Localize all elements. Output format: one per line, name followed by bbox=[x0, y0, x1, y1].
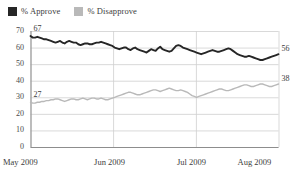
x-tick-label: May 2009 bbox=[3, 158, 38, 167]
x-tick-label: Jun 2009 bbox=[94, 158, 125, 167]
y-tick-label: 0 bbox=[6, 143, 24, 151]
y-tick-label: 10 bbox=[6, 126, 24, 134]
y-tick-label: 40 bbox=[6, 77, 24, 85]
y-tick-label: 60 bbox=[6, 44, 24, 52]
series-line-disapprove bbox=[31, 84, 279, 103]
series-lines bbox=[31, 36, 279, 103]
value-label-approve-start: 67 bbox=[34, 25, 42, 33]
plot-area bbox=[0, 0, 299, 176]
value-label-approve-end: 56 bbox=[282, 45, 290, 53]
value-label-disapprove-end: 38 bbox=[282, 75, 290, 83]
x-tick-label: Aug 2009 bbox=[238, 158, 272, 167]
y-tick-label: 50 bbox=[6, 60, 24, 68]
y-tick-label: 20 bbox=[6, 110, 24, 118]
y-tick-label: 70 bbox=[6, 27, 24, 35]
y-tick-label: 30 bbox=[6, 93, 24, 101]
x-tick-label: Jul 2009 bbox=[177, 158, 206, 167]
approval-rating-chart: % Approve % Disapprove 010203040506070 M… bbox=[0, 0, 299, 176]
value-label-disapprove-start: 27 bbox=[34, 91, 42, 99]
